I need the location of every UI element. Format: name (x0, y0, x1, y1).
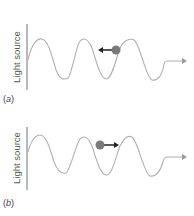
panel-b: Light source (b) (0, 108, 194, 216)
panel-label-a: (a) (3, 94, 14, 104)
particle-dot (96, 141, 105, 150)
light-wave (28, 39, 182, 80)
wave-direction-arrowhead-icon (182, 58, 187, 64)
right-arrowhead-icon (114, 142, 119, 148)
light-wave (28, 135, 182, 176)
wave-diagram-b (0, 108, 194, 216)
wave-direction-arrowhead-icon (182, 154, 187, 160)
left-arrowhead-icon (98, 47, 103, 53)
particle-dot (112, 46, 121, 55)
wave-diagram-a (0, 0, 194, 108)
panel-label-b: (b) (3, 198, 14, 208)
panel-a: Light source (a) (0, 0, 194, 108)
